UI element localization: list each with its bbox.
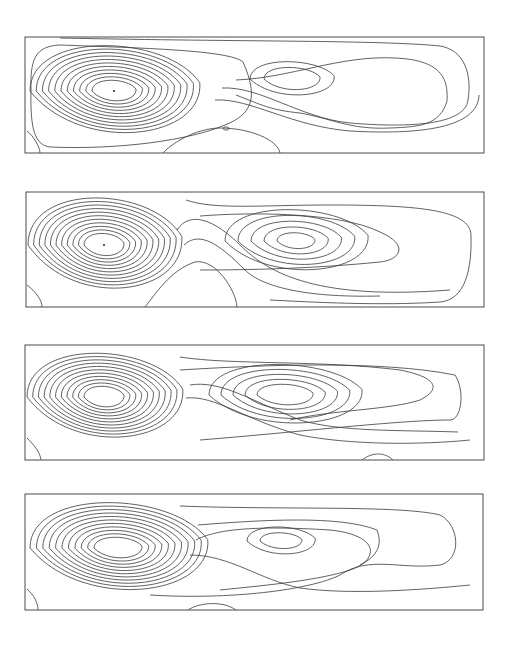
streamline <box>188 604 236 610</box>
vortex-right-ring <box>225 210 368 270</box>
streamline <box>215 95 479 132</box>
vortex-right-ring <box>247 527 315 554</box>
streamline <box>236 58 447 128</box>
streamline <box>362 454 393 460</box>
streamline <box>180 365 461 440</box>
panel-4 <box>25 494 483 610</box>
vortex-right-ring <box>264 67 320 89</box>
streamline <box>186 200 471 304</box>
panel-3 <box>25 345 484 460</box>
streamline <box>27 131 40 153</box>
vortex-left-ring <box>38 360 171 431</box>
vortex-right-ring <box>233 374 338 414</box>
vortex-left-ring <box>84 386 124 407</box>
streamline <box>198 520 379 565</box>
vortex-left-ring <box>42 53 187 127</box>
vortex-left-ring <box>34 201 177 284</box>
panel-frame <box>26 192 484 307</box>
contour-lines <box>27 198 471 307</box>
streamline <box>196 528 370 590</box>
vortex-left-ring <box>94 537 142 558</box>
streamline <box>200 214 399 270</box>
contour-lines <box>27 503 470 610</box>
contour-figure <box>0 0 514 648</box>
vortex-right-ring <box>277 233 315 249</box>
streamline <box>190 555 470 591</box>
streamline <box>27 285 42 307</box>
streamline <box>163 128 280 153</box>
contour-lines <box>27 38 479 153</box>
streamline <box>27 589 38 610</box>
vortex-right-ring <box>260 533 302 549</box>
panel-frame <box>25 37 484 153</box>
vortex-left-ring <box>39 205 170 282</box>
vortex-right-ring <box>264 227 328 254</box>
vortex-right-ring <box>238 215 355 264</box>
contour-lines <box>27 353 470 460</box>
vortex-left-ring <box>81 530 155 564</box>
streamline <box>27 438 41 460</box>
vortex-right-ring <box>257 384 313 405</box>
vortex-center-marker <box>103 244 105 246</box>
vortex-left-ring <box>36 49 193 129</box>
vortex-left-ring <box>33 357 177 435</box>
panel-2 <box>26 192 484 307</box>
streamline <box>145 262 237 307</box>
vortex-left-ring <box>43 510 195 584</box>
vortex-left-ring <box>36 506 201 586</box>
vortex-left-ring <box>73 380 136 413</box>
panel-1 <box>25 37 484 153</box>
vortex-center-marker <box>113 90 115 92</box>
vortex-left-ring <box>88 534 149 561</box>
vortex-left-ring <box>78 383 130 410</box>
